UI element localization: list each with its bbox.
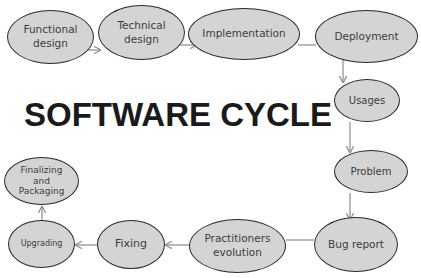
node-usages: Usages [334,79,400,122]
node-bug-report: Bug report [314,217,398,272]
node-practitioners-evolution: Practitioners evolution [189,219,286,273]
node-label: Upgrading [21,239,63,249]
diagram-title: SOFTWARE CYCLE [24,96,316,134]
node-upgrading: Upgrading [8,220,75,268]
node-functional-design: Functional design [7,10,94,64]
node-label: Usages [349,94,385,107]
node-label: Technical design [117,19,165,46]
node-label: Functional design [23,23,77,50]
node-label: Deployment [334,30,398,44]
node-label: Implementation [202,27,285,41]
node-fixing: Fixing [97,220,165,269]
node-implementation: Implementation [188,8,300,60]
node-deployment: Deployment [315,10,418,63]
node-label: Bug report [328,238,384,252]
node-problem: Problem [334,150,408,193]
node-label: Problem [351,165,392,178]
node-label: Finalizing and Packaging [19,165,65,197]
node-label: Fixing [115,237,147,251]
node-finalizing-and-packaging: Finalizing and Packaging [4,157,79,205]
node-label: Practitioners evolution [204,232,270,259]
node-technical-design: Technical design [98,5,185,60]
